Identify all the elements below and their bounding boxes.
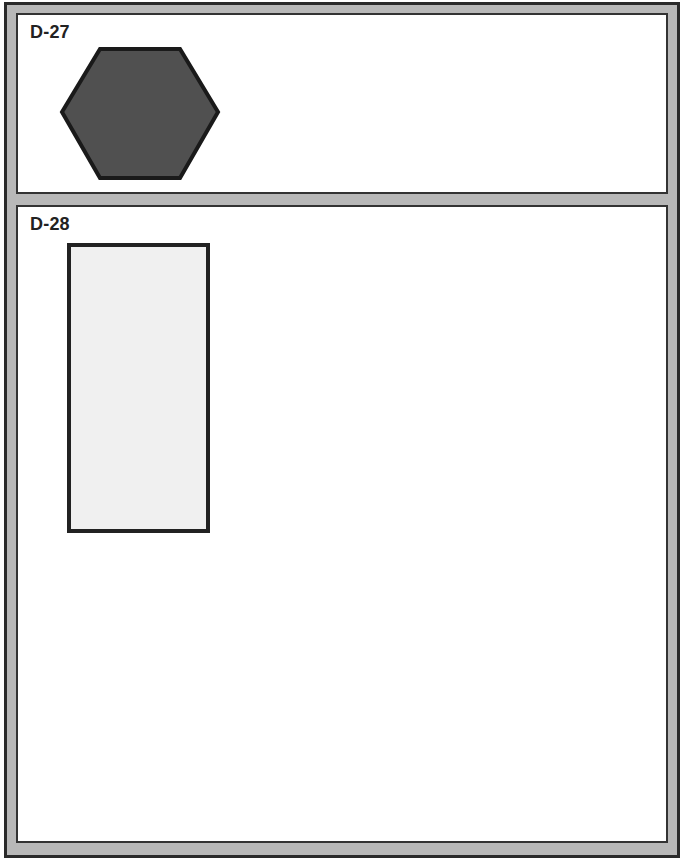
rectangle-icon xyxy=(67,243,210,533)
panel-label-d-28: D-28 xyxy=(30,214,70,235)
hexagon-icon xyxy=(18,15,670,196)
panel-d-27: D-27 xyxy=(16,13,668,194)
hexagon-shape xyxy=(62,49,218,178)
panel-d-28: D-28 xyxy=(16,205,668,843)
